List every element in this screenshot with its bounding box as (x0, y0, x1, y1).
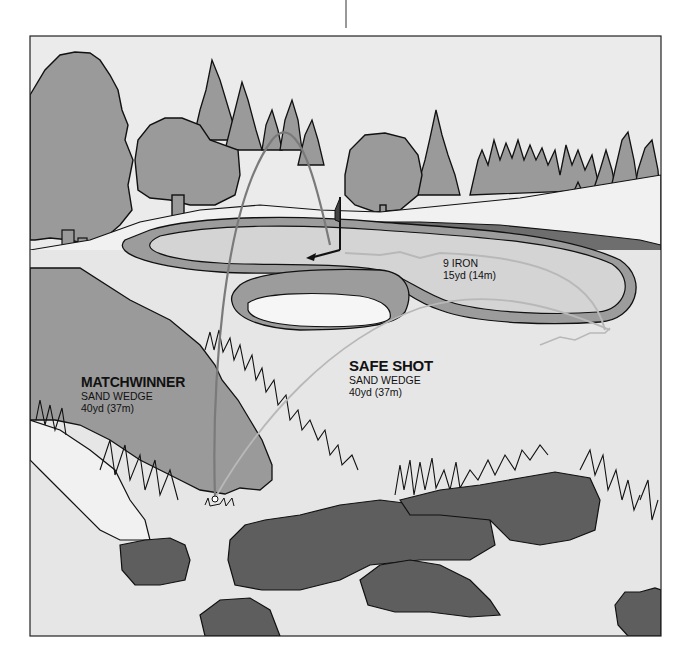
nine-iron-label: 9 IRON 15yd (14m) (443, 257, 496, 281)
bunker-sand (248, 294, 390, 327)
matchwinner-distance: 40yd (37m) (81, 402, 185, 414)
safe-shot-club: SAND WEDGE (349, 374, 433, 386)
golf-ball (212, 496, 218, 502)
golf-shot-diagram (0, 0, 695, 671)
nine-iron-distance: 15yd (14m) (443, 269, 496, 281)
matchwinner-club: SAND WEDGE (81, 390, 185, 402)
matchwinner-title: MATCHWINNER (81, 374, 185, 390)
nine-iron-club: 9 IRON (443, 257, 496, 269)
safe-shot-distance: 40yd (37m) (349, 386, 433, 398)
matchwinner-label: MATCHWINNER SAND WEDGE 40yd (37m) (81, 374, 185, 414)
safe-shot-title: SAFE SHOT (349, 357, 433, 374)
safe-shot-label: SAFE SHOT SAND WEDGE 40yd (37m) (349, 357, 433, 398)
